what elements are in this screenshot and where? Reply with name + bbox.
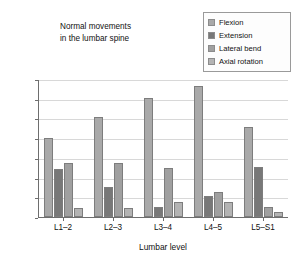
chart-title-line-2: in the lumbar spine	[60, 33, 190, 45]
chart-title-line-1: Normal movements	[60, 21, 190, 33]
y-tick-mark	[35, 198, 38, 199]
legend-swatch-axial-rotation	[208, 58, 215, 65]
chart-legend: Flexion Extension Lateral bend Axial rot…	[203, 12, 291, 72]
legend-label-lateral-bend: Lateral bend	[219, 44, 261, 53]
legend-label-flexion: Flexion	[219, 18, 243, 27]
legend-swatch-lateral-bend	[208, 45, 215, 52]
bar-flexion	[44, 138, 53, 217]
legend-item-lateral-bend: Lateral bend	[208, 42, 286, 54]
bar-axial-rotation	[224, 202, 233, 217]
x-tick: L4–5	[188, 218, 238, 228]
bar-flexion	[194, 86, 203, 217]
x-tick: L1–2	[38, 218, 88, 228]
x-tick-label: L5–S1	[238, 223, 288, 232]
bar-chart: Normal movements in the lumbar spine Fle…	[0, 0, 297, 263]
bar-group	[188, 80, 238, 217]
bar-axial-rotation	[124, 208, 133, 217]
x-tick-mark	[113, 218, 114, 221]
bar-flexion	[244, 127, 253, 217]
x-tick: L2–3	[88, 218, 138, 228]
bar-axial-rotation	[174, 202, 183, 217]
y-tick-mark	[35, 80, 38, 81]
y-tick-mark	[35, 119, 38, 120]
bar-extension	[204, 196, 213, 217]
bar-group	[89, 80, 139, 217]
legend-item-flexion: Flexion	[208, 16, 286, 28]
chart-title: Normal movements in the lumbar spine	[60, 21, 190, 44]
y-tick-mark	[35, 100, 38, 101]
plot-area-wrapper: Range of movement (degrees) 02468101214	[38, 80, 288, 218]
x-tick-label: L2–3	[88, 223, 138, 232]
x-tick-label: L3–4	[138, 223, 188, 232]
bar-lateral-bend	[214, 192, 223, 217]
bar-axial-rotation	[274, 212, 283, 217]
x-axis-ticks: L1–2L2–3L3–4L4–5L5–S1	[38, 218, 288, 228]
bar-lateral-bend	[164, 168, 173, 217]
bar-axial-rotation	[74, 208, 83, 217]
bar-group	[238, 80, 288, 217]
x-tick: L3–4	[138, 218, 188, 228]
y-tick-mark	[35, 159, 38, 160]
legend-swatch-flexion	[208, 19, 215, 26]
bar-extension	[254, 167, 263, 217]
x-axis-title: Lumbar level	[38, 242, 288, 252]
legend-item-extension: Extension	[208, 29, 286, 41]
bar-flexion	[94, 117, 103, 217]
x-tick-mark	[213, 218, 214, 221]
y-tick-mark	[35, 179, 38, 180]
x-tick-mark	[63, 218, 64, 221]
x-tick-mark	[163, 218, 164, 221]
bar-extension	[54, 169, 63, 217]
bar-group	[39, 80, 89, 217]
bar-lateral-bend	[264, 207, 273, 217]
bar-groups	[39, 80, 288, 217]
bar-extension	[104, 187, 113, 217]
x-tick-label: L4–5	[188, 223, 238, 232]
bar-lateral-bend	[114, 163, 123, 217]
x-tick-label: L1–2	[38, 223, 88, 232]
legend-label-axial-rotation: Axial rotation	[219, 57, 263, 66]
plot-area	[38, 80, 288, 218]
legend-item-axial-rotation: Axial rotation	[208, 55, 286, 67]
bar-lateral-bend	[64, 163, 73, 217]
x-tick-mark	[263, 218, 264, 221]
bar-group	[139, 80, 189, 217]
bar-flexion	[144, 98, 153, 217]
legend-swatch-extension	[208, 32, 215, 39]
legend-label-extension: Extension	[219, 31, 252, 40]
bar-extension	[154, 207, 163, 217]
y-tick-mark	[35, 139, 38, 140]
x-tick: L5–S1	[238, 218, 288, 228]
